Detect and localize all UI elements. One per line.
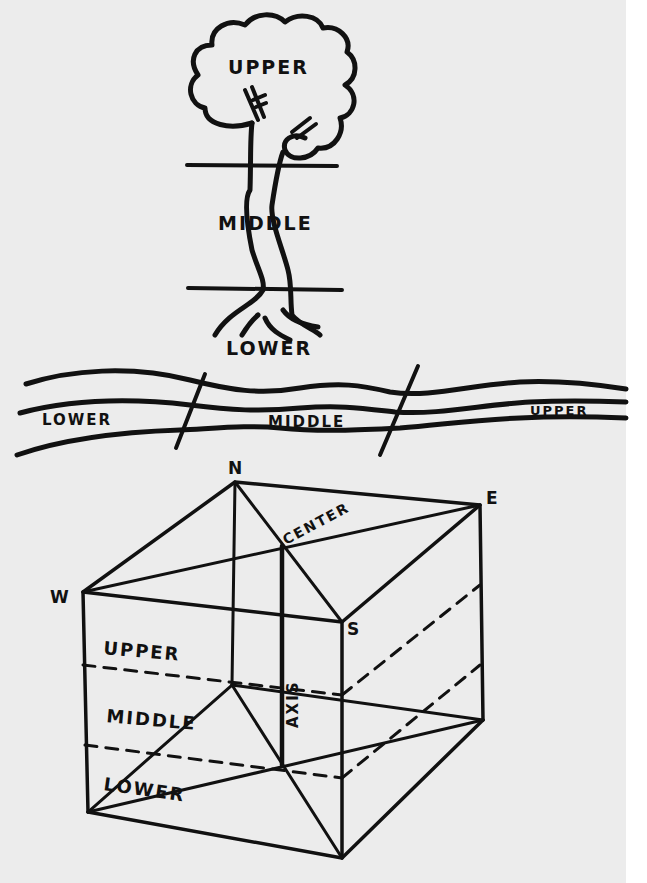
cube-middle-label: MIDDLE [106,705,198,734]
tree-canopy-outline [191,15,355,158]
tree-upper-label: UPPER [228,56,309,78]
cube-lower-label: LOWER [102,773,186,805]
corner-east-label: E [486,488,500,508]
river-middle-label: MIDDLE [268,413,345,431]
tree-roots [242,310,318,340]
middle-lower-boundary-side [342,665,480,778]
tree-branch-mark [245,87,266,120]
cube-bottom-back-east [232,685,483,720]
tree-figure: UPPER MIDDLE LOWER [187,15,355,359]
upper-middle-boundary-side [342,585,480,695]
river-divider-1 [176,374,205,448]
tree-middle-label: MIDDLE [218,212,313,234]
river-upper-label: UPPER [530,403,589,418]
upper-middle-boundary-front [83,665,342,695]
cube-upper-label: UPPER [103,637,182,665]
cube-figure: N E W S CENTER AXIS UPPER MIDDLE LOWER [50,458,500,858]
axis-label: AXIS [284,680,302,728]
cube-edge-north [232,482,235,685]
corner-south-label: S [347,619,361,639]
corner-west-label: W [50,587,71,607]
river-figure: LOWER MIDDLE UPPER [17,366,626,455]
river-bank-top [26,371,626,394]
cube-edge-west [83,592,88,812]
tree-trunk-right [272,152,320,335]
corner-north-label: N [228,458,244,478]
diagram-canvas: UPPER MIDDLE LOWER LOWER MIDDLE UPPER [0,0,647,883]
tree-upper-boundary [187,165,337,166]
cube-top-diagonal-ns [235,482,342,622]
cube-edge-east [480,505,483,720]
river-lower-label: LOWER [42,411,112,429]
tree-lower-label: LOWER [226,337,312,359]
tree-lower-boundary [188,288,342,290]
